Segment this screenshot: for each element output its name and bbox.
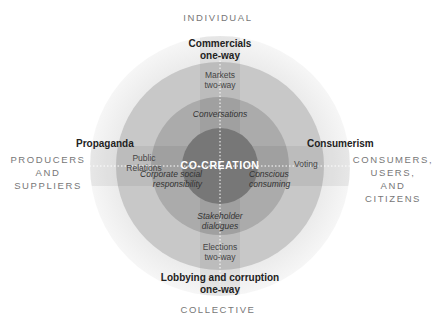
- label-elections: Elections two-way: [180, 243, 260, 263]
- label-conscious-consuming: Conscious consuming: [249, 170, 309, 190]
- axis-label-producers: PRODUCERS AND SUPPLIERS: [8, 153, 88, 192]
- label-line: two-way: [180, 81, 260, 91]
- label-line: Lobbying and corruption: [130, 272, 310, 284]
- label-line: responsibility: [132, 180, 202, 190]
- axis-label-collective: COLLECTIVE: [0, 305, 436, 316]
- label-line: dialogues: [170, 222, 270, 232]
- axis-label-individual: INDIVIDUAL: [0, 13, 436, 24]
- label-line: one-way: [130, 284, 310, 296]
- label-consumerism: Consumerism: [307, 138, 374, 150]
- label-csr: Corporate social responsibility: [132, 170, 202, 190]
- label-line: one-way: [160, 50, 280, 62]
- axis-label-line: PRODUCERS: [8, 153, 88, 166]
- axis-label-line: AND: [350, 179, 436, 192]
- axis-label-line: SUPPLIERS: [8, 179, 88, 192]
- axis-label-line: CONSUMERS,: [350, 153, 436, 166]
- label-propaganda: Propaganda: [76, 138, 134, 150]
- label-line: two-way: [180, 253, 260, 263]
- label-line: consuming: [249, 180, 309, 190]
- label-conversations: Conversations: [170, 110, 270, 120]
- label-voting: Voting: [294, 160, 318, 170]
- axis-label-line: AND: [8, 166, 88, 179]
- label-co-creation: CO-CREATION: [170, 159, 270, 171]
- label-line: Commercials: [160, 38, 280, 50]
- label-markets: Markets two-way: [180, 71, 260, 91]
- axis-label-consumers: CONSUMERS, USERS, AND CITIZENS: [350, 153, 436, 205]
- axis-label-line: CITIZENS: [350, 192, 436, 205]
- label-stakeholder-dialogues: Stakeholder dialogues: [170, 212, 270, 232]
- label-commercials: Commercials one-way: [160, 38, 280, 61]
- co-creation-diagram: INDIVIDUAL COLLECTIVE PRODUCERS AND SUPP…: [0, 0, 436, 329]
- label-lobbying: Lobbying and corruption one-way: [130, 272, 310, 295]
- axis-label-line: USERS,: [350, 166, 436, 179]
